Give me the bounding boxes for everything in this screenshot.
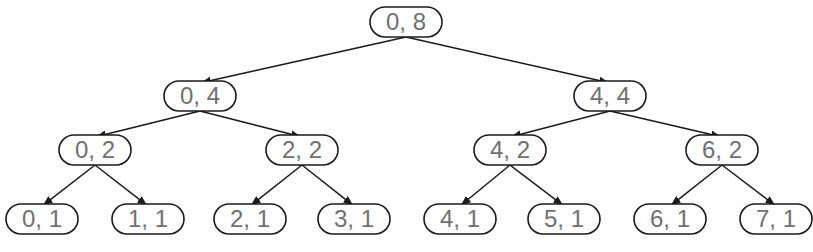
edge-arrow [202, 37, 406, 83]
tree-node: 2, 1 [214, 204, 286, 234]
node-label: 0, 4 [180, 82, 220, 109]
edges-layer [44, 37, 775, 205]
node-label: 0, 8 [386, 8, 426, 35]
tree-node: 4, 2 [474, 135, 546, 165]
edge-arrow [95, 165, 146, 205]
edge-arrow [722, 165, 774, 205]
edge-arrow [97, 111, 200, 137]
edge-arrow [252, 165, 302, 205]
node-label: 1, 1 [128, 205, 168, 232]
tree-node: 5, 1 [528, 204, 600, 234]
tree-node: 0, 8 [370, 7, 442, 37]
tree-node: 2, 2 [266, 135, 338, 165]
edge-arrow [462, 165, 510, 205]
tree-node: 1, 1 [112, 204, 184, 234]
tree-canvas: 0, 80, 44, 40, 22, 24, 26, 20, 11, 12, 1… [0, 0, 813, 252]
node-label: 4, 2 [490, 136, 530, 163]
tree-node: 6, 1 [634, 204, 706, 234]
node-label: 7, 1 [756, 205, 796, 232]
edge-arrow [44, 165, 95, 205]
edge-arrow [406, 37, 608, 83]
node-label: 0, 1 [22, 205, 62, 232]
node-label: 6, 2 [702, 136, 742, 163]
node-label: 2, 2 [282, 136, 322, 163]
edge-arrow [610, 111, 720, 137]
node-label: 2, 1 [230, 205, 270, 232]
tree-node: 4, 4 [574, 81, 646, 111]
node-label: 3, 1 [334, 205, 374, 232]
tree-node: 6, 2 [686, 135, 758, 165]
edge-arrow [510, 165, 562, 205]
tree-node: 0, 4 [164, 81, 236, 111]
node-label: 0, 2 [75, 136, 115, 163]
tree-node: 7, 1 [740, 204, 812, 234]
node-label: 4, 1 [440, 205, 480, 232]
edge-arrow [302, 165, 352, 205]
tree-node: 0, 2 [59, 135, 131, 165]
tree-node: 0, 1 [6, 204, 78, 234]
edge-arrow [672, 165, 722, 205]
node-label: 5, 1 [544, 205, 584, 232]
tree-node: 3, 1 [318, 204, 390, 234]
edge-arrow [512, 111, 610, 137]
node-label: 4, 4 [590, 82, 630, 109]
node-label: 6, 1 [650, 205, 690, 232]
tree-diagram: 0, 80, 44, 40, 22, 24, 26, 20, 11, 12, 1… [0, 0, 813, 252]
nodes-layer: 0, 80, 44, 40, 22, 24, 26, 20, 11, 12, 1… [6, 7, 812, 234]
edge-arrow [200, 111, 300, 137]
tree-node: 4, 1 [424, 204, 496, 234]
